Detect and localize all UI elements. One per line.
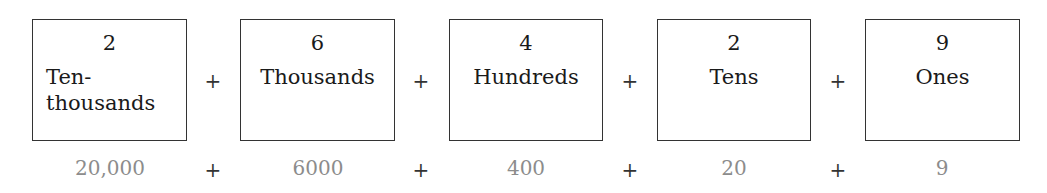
place-label: Ten- thousands	[33, 64, 186, 116]
place-label: Ones	[866, 64, 1019, 90]
plus-sign: +	[406, 71, 436, 91]
place-label: Hundreds	[450, 64, 602, 90]
place-value-amount: 9	[862, 156, 1022, 180]
place-value-amount: 6000	[238, 156, 398, 180]
place-digit: 4	[450, 30, 602, 56]
place-label-line2: thousands	[46, 90, 186, 116]
place-digit: 2	[33, 30, 186, 56]
place-value-amount: 400	[446, 156, 606, 180]
plus-sign: +	[615, 71, 645, 91]
place-digit: 9	[866, 30, 1019, 56]
place-label: Tens	[658, 64, 810, 90]
place-digit: 2	[658, 30, 810, 56]
plus-sign: +	[198, 160, 228, 180]
plus-sign: +	[823, 160, 853, 180]
plus-sign: +	[615, 160, 645, 180]
plus-sign: +	[198, 71, 228, 91]
place-box-ones: 9 Ones	[865, 19, 1020, 141]
place-label: Thousands	[241, 64, 394, 90]
place-digit: 6	[241, 30, 394, 56]
place-value-amount: 20	[654, 156, 814, 180]
place-box-tens: 2 Tens	[657, 19, 811, 141]
plus-sign: +	[823, 71, 853, 91]
place-box-ten-thousands: 2 Ten- thousands	[32, 19, 187, 141]
place-box-thousands: 6 Thousands	[240, 19, 395, 141]
plus-sign: +	[406, 160, 436, 180]
place-box-hundreds: 4 Hundreds	[449, 19, 603, 141]
place-value-amount: 20,000	[30, 156, 190, 180]
place-label-line1: Ten-	[46, 64, 186, 90]
